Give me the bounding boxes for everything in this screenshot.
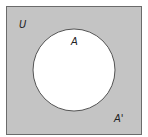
venn-diagram: U A A' — [0, 0, 148, 137]
complement-label: A' — [113, 113, 124, 124]
universe-label: U — [19, 19, 27, 30]
set-a-label: A — [70, 36, 78, 47]
